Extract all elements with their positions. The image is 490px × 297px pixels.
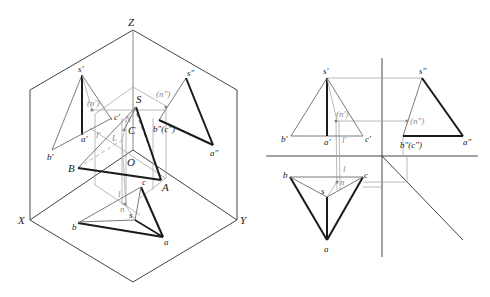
front-n-label: (n') — [87, 98, 99, 108]
ortho-side-bc-label: b"(c") — [400, 140, 422, 150]
front-wall-triangle — [52, 75, 165, 150]
side-s-label: s" — [187, 68, 195, 78]
ortho-front-c-label: c' — [365, 134, 372, 144]
top-l-label: l — [118, 189, 121, 199]
point-N-label: N — [124, 114, 132, 124]
ortho-front-b-label: b' — [281, 134, 289, 144]
top-view — [290, 177, 363, 240]
ortho-top-c-label: c — [364, 170, 368, 180]
z-axis-label: Z — [128, 16, 135, 28]
side-a-label: a" — [210, 148, 219, 158]
orthographic-view: s' b' a' c' (n') l' s" b"(c") a" (n") b … — [266, 58, 478, 257]
ortho-side-s-label: s" — [419, 66, 427, 76]
top-a-label: a — [164, 237, 169, 247]
top-b-label: b — [72, 222, 77, 232]
point-S-label: S — [136, 93, 142, 105]
ortho-side-a-label: a" — [463, 137, 472, 147]
ortho-top-n-label: n — [340, 177, 345, 187]
front-view — [291, 78, 363, 136]
isometric-view: Z X Y O S A B C N L s' a' b' c' (n') l' … — [17, 16, 248, 282]
top-c-label: c — [142, 177, 146, 187]
side-view — [403, 78, 463, 136]
front-s-label: s' — [78, 64, 85, 74]
front-a-label: a' — [81, 134, 89, 144]
ortho-construction-lines — [327, 78, 422, 190]
side-n-label: (n") — [156, 89, 170, 99]
ortho-front-a-label: a' — [324, 137, 332, 147]
front-c-label: c' — [114, 112, 121, 122]
top-s-label: s — [129, 210, 133, 220]
ortho-top-l-label: l — [343, 164, 346, 174]
ortho-top-a-label: a — [324, 244, 329, 254]
x-axis-label: X — [17, 214, 26, 226]
ortho-top-b-label: b — [283, 170, 288, 180]
top-n-label: n — [120, 204, 125, 214]
ortho-top-s-label: s — [321, 186, 325, 196]
point-A-label: A — [161, 181, 169, 193]
ortho-front-n-label: (n') — [336, 109, 348, 119]
origin-label: O — [127, 156, 135, 168]
y-axis-label: Y — [240, 214, 248, 226]
projection-axes — [266, 58, 478, 257]
pyramid-projection-diagram: Z X Y O S A B C N L s' a' b' c' (n') l' … — [0, 0, 490, 297]
ortho-front-s-label: s' — [323, 66, 330, 76]
side-bc-label: b"(c") — [153, 124, 175, 134]
point-B-label: B — [68, 162, 75, 174]
point-C-label: C — [128, 124, 136, 136]
point-L-label: L — [111, 133, 117, 143]
ortho-side-n-label: (n") — [410, 116, 424, 126]
front-b-label: b' — [47, 152, 55, 162]
